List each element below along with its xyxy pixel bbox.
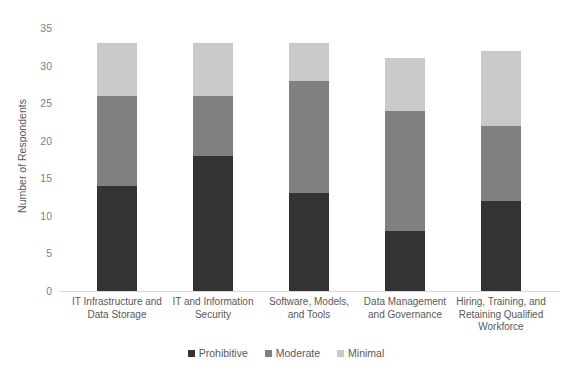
bar-stack (481, 28, 521, 291)
stacked-bar-chart: Number of Respondents 35302520151050 IT … (0, 0, 572, 374)
bar-segment-moderate (193, 96, 233, 156)
y-axis-tick-label: 20 (24, 136, 52, 146)
bar-segment-moderate (481, 126, 521, 201)
bar-stack (193, 28, 233, 291)
x-axis-category-label: Hiring, Training, andRetaining Qualified… (445, 296, 557, 334)
bar-segment-minimal (97, 43, 137, 96)
bar-segment-moderate (97, 96, 137, 186)
bar-segment-prohibitive (97, 186, 137, 291)
y-axis-tick-label: 0 (24, 286, 52, 296)
y-axis-tick-label: 5 (24, 248, 52, 258)
legend-label: Minimal (348, 348, 384, 359)
bar-segment-prohibitive (289, 193, 329, 291)
x-axis-line (60, 291, 560, 292)
y-axis-tick-label: 25 (24, 98, 52, 108)
chart-legend: ProhibitiveModerateMinimal (0, 348, 572, 359)
bar-segment-minimal (385, 58, 425, 111)
legend-item[interactable]: Prohibitive (188, 348, 248, 359)
bar-stack (97, 28, 137, 291)
bar-segment-moderate (385, 111, 425, 231)
bar-segment-moderate (289, 81, 329, 194)
y-axis-tick-label: 10 (24, 211, 52, 221)
legend-swatch-icon (265, 350, 272, 357)
bar-segment-prohibitive (385, 231, 425, 291)
legend-item[interactable]: Moderate (265, 348, 320, 359)
bar-stack (289, 28, 329, 291)
plot-area (60, 28, 560, 291)
legend-item[interactable]: Minimal (337, 348, 384, 359)
category-label-line: Retaining Qualified (445, 309, 557, 322)
legend-swatch-icon (337, 350, 344, 357)
bar-segment-minimal (289, 43, 329, 81)
legend-label: Moderate (276, 348, 320, 359)
category-label-line: Workforce (445, 321, 557, 334)
y-axis-tick-label: 15 (24, 173, 52, 183)
bar-segment-prohibitive (481, 201, 521, 291)
category-label-line: Hiring, Training, and (445, 296, 557, 309)
legend-swatch-icon (188, 350, 195, 357)
bar-stack (385, 28, 425, 291)
y-axis-tick-label: 30 (24, 61, 52, 71)
bar-segment-prohibitive (193, 156, 233, 291)
bar-segment-minimal (193, 43, 233, 96)
bar-segment-minimal (481, 51, 521, 126)
y-axis-tick-label: 35 (24, 23, 52, 33)
legend-label: Prohibitive (199, 348, 248, 359)
